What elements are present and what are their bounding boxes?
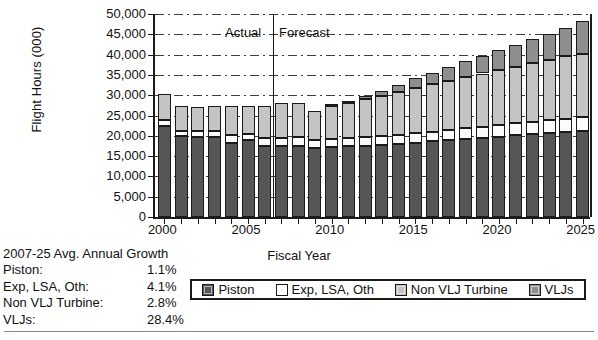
bar-segment-exp xyxy=(242,134,255,140)
growth-table-rows: Piston:1.1%Exp, LSA, Oth:4.1%Non VLJ Tur… xyxy=(3,262,195,328)
bar-segment-nonvlj xyxy=(509,67,522,124)
growth-row-label: VLJs: xyxy=(3,312,36,329)
y-axis-tick-label: 45,000 xyxy=(90,26,146,41)
bar-segment-nonvlj xyxy=(158,94,171,121)
growth-row-value: 1.1% xyxy=(147,262,195,279)
growth-table-row: Exp, LSA, Oth:4.1% xyxy=(3,279,195,296)
gridline xyxy=(155,34,590,35)
annotation-actual: Actual xyxy=(225,25,261,40)
bar-segment-exp xyxy=(342,138,355,146)
y-axis-tick xyxy=(148,55,155,56)
y-axis-tick xyxy=(148,34,155,35)
legend-label: Exp, LSA, Oth xyxy=(292,282,374,297)
bar-segment-piston xyxy=(225,143,238,217)
growth-row-label: Non VLJ Turbine: xyxy=(3,295,103,312)
bar-segment-exp xyxy=(576,117,589,131)
bar-segment-vlj xyxy=(442,67,455,81)
bar-segment-piston xyxy=(242,140,255,217)
y-axis-tick-label: 5,000 xyxy=(90,189,146,204)
legend-swatch-piston xyxy=(202,284,214,296)
bar-segment-nonvlj xyxy=(225,106,238,136)
bar-segment-vlj xyxy=(342,101,355,103)
bar-segment-nonvlj xyxy=(208,106,221,131)
x-axis-tick xyxy=(382,217,383,224)
bar-segment-vlj xyxy=(476,56,489,74)
bar-segment-exp xyxy=(559,119,572,132)
plot-right-border xyxy=(590,14,592,217)
bar-segment-exp xyxy=(409,133,422,143)
bar-segment-nonvlj xyxy=(409,88,422,133)
bar-segment-nonvlj xyxy=(308,111,321,139)
y-axis-tick xyxy=(148,95,155,96)
y-axis-tick xyxy=(148,217,155,218)
bar-segment-exp xyxy=(191,131,204,137)
bar-segment-piston xyxy=(325,147,338,217)
gridline xyxy=(155,14,590,15)
growth-row-value: 4.1% xyxy=(147,279,195,296)
legend-item-nonvlj: Non VLJ Turbine xyxy=(395,282,508,297)
bar-segment-vlj xyxy=(392,85,405,92)
bar-segment-vlj xyxy=(492,50,505,70)
x-axis-tick-label: 2025 xyxy=(555,222,598,237)
bar-segment-exp xyxy=(292,137,305,146)
x-axis-tick xyxy=(215,217,216,224)
bar-segment-exp xyxy=(526,122,539,134)
gridline xyxy=(155,75,590,76)
x-axis-tick-label: 2010 xyxy=(304,222,356,237)
bar-segment-exp xyxy=(359,137,372,146)
x-axis-tick xyxy=(198,217,199,224)
bar-segment-vlj xyxy=(426,73,439,85)
bar-segment-nonvlj xyxy=(292,103,305,137)
bar-segment-exp xyxy=(392,135,405,144)
bar-segment-exp xyxy=(208,131,221,137)
y-axis-tick xyxy=(148,116,155,117)
bar-segment-nonvlj xyxy=(191,107,204,131)
bar-segment-exp xyxy=(275,138,288,145)
bar-segment-piston xyxy=(292,146,305,217)
bar-segment-piston xyxy=(459,139,472,217)
bar-segment-piston xyxy=(208,137,221,217)
bar-segment-exp xyxy=(492,125,505,137)
bar-segment-piston xyxy=(158,126,171,217)
y-axis-tick xyxy=(148,176,155,177)
bar-segment-nonvlj xyxy=(442,81,455,130)
growth-table-row: Non VLJ Turbine:2.8% xyxy=(3,295,195,312)
y-axis-tick-label: 25,000 xyxy=(90,108,146,123)
bar-segment-nonvlj xyxy=(359,99,372,137)
legend-label: VLJs xyxy=(545,282,574,297)
y-axis-title: Flight Hours (000) xyxy=(29,0,44,160)
y-axis-tick xyxy=(148,14,155,15)
bar-segment-exp xyxy=(325,139,338,147)
x-axis-tick-label: 2015 xyxy=(387,222,439,237)
y-axis-tick-label: 10,000 xyxy=(90,168,146,183)
bar-segment-piston xyxy=(258,146,271,217)
bar-segment-piston xyxy=(342,146,355,217)
bar-segment-nonvlj xyxy=(258,106,271,138)
bar-segment-piston xyxy=(476,138,489,217)
bar-segment-vlj xyxy=(559,28,572,56)
growth-row-label: Exp, LSA, Oth: xyxy=(3,279,89,296)
bar-segment-nonvlj xyxy=(576,54,589,118)
bar-segment-piston xyxy=(426,141,439,217)
bar-segment-nonvlj xyxy=(492,70,505,125)
bar-segment-nonvlj xyxy=(526,63,539,122)
bar-segment-piston xyxy=(492,137,505,217)
growth-summary-table: 2007-25 Avg. Annual Growth Piston:1.1%Ex… xyxy=(3,246,195,328)
bar-segment-nonvlj xyxy=(476,74,489,127)
bar-segment-nonvlj xyxy=(459,77,472,128)
growth-row-value: 2.8% xyxy=(147,295,195,312)
x-axis-tick-label: 2020 xyxy=(471,222,523,237)
growth-row-spacer xyxy=(89,279,147,296)
bar-segment-nonvlj xyxy=(175,106,188,131)
bar-segment-piston xyxy=(543,133,556,217)
x-axis-tick xyxy=(466,217,467,224)
y-axis-tick xyxy=(148,136,155,137)
x-axis-tick xyxy=(449,217,450,224)
legend-swatch-vlj xyxy=(529,284,541,296)
flight-hours-stacked-bar-chart: Flight Hours (000) 05,00010,00015,00020,… xyxy=(0,0,598,340)
bar-segment-piston xyxy=(275,146,288,217)
bar-segment-exp xyxy=(375,136,388,145)
y-axis-tick-label: 30,000 xyxy=(90,87,146,102)
footer-divider-rule xyxy=(4,331,594,332)
x-axis-tick xyxy=(549,217,550,224)
